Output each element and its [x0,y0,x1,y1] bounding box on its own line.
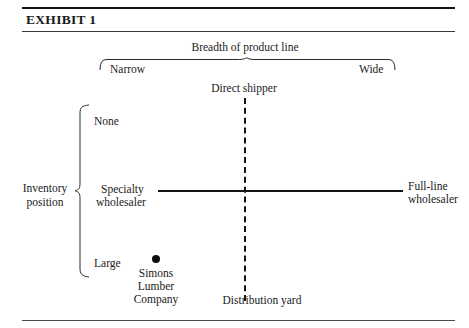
exhibit-figure: EXHIBIT 1 Breadth of product line Narrow… [0,0,469,328]
y-axis-title: Inventory position [14,182,76,209]
header-rule-bottom [22,31,455,32]
data-point-simons-lumber[interactable] [152,255,160,263]
data-point-label-line3: Company [134,293,179,307]
inventory-position-brace [74,104,90,278]
y-tick-specialty-line2: wholesaler [96,196,146,210]
quadrant-label-direct-shipper: Direct shipper [211,82,276,96]
x-axis-low-label: Narrow [110,63,145,77]
data-point-label-line2: Lumber [138,280,174,294]
data-point-label-line1: Simons [139,267,174,281]
quadrant-label-distribution-yard: Distribution yard [223,294,302,308]
footer-rule [22,320,455,321]
quadrant-label-full-line-1: Full-line [408,180,448,194]
header-rule-top [22,7,455,9]
x-axis-high-label: Wide [359,63,383,77]
horizontal-axis-line [158,190,403,192]
vertical-dashed-divider [244,98,246,301]
y-tick-none: None [94,115,119,129]
x-axis-title: Breadth of product line [192,41,299,55]
quadrant-label-full-line-2: wholesaler [408,193,458,207]
y-tick-specialty-line1: Specialty [101,183,144,197]
exhibit-title: EXHIBIT 1 [26,11,96,29]
y-tick-large: Large [94,257,121,271]
